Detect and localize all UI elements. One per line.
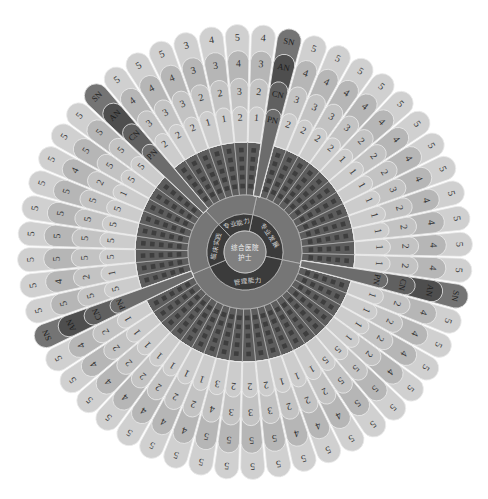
item-label-glyph [231,175,236,180]
item-label-glyph [257,341,262,346]
item-label-glyph [141,241,146,246]
level-value-label: 4 [236,58,241,69]
item-label-glyph [245,316,250,321]
item-label-glyph [177,244,182,249]
chart-canvas: 专业发展管理能力临床实践专业能力 23452345234523451245124… [0,0,488,499]
item-label-glyph [168,252,173,257]
radial-competency-chart: 专业发展管理能力临床实践专业能力 23452345234523451245124… [0,0,488,499]
level-value-label: 4 [428,265,439,271]
item-label-glyph [142,265,147,270]
item-label-glyph [253,315,258,320]
item-label-glyph [251,148,256,153]
item-label-glyph [240,184,245,189]
item-label-glyph [246,343,251,348]
level-value-label: 5 [235,32,240,43]
level-value-label: 5 [51,233,62,239]
item-label-glyph [249,175,254,180]
level-value-label: 3 [237,86,242,97]
level-value-label: 3 [228,407,234,418]
item-label-glyph [234,351,239,356]
level-value-label: 4 [428,243,439,248]
item-label-glyph [239,148,244,153]
item-label-glyph [160,232,165,237]
item-label-glyph [150,253,155,258]
item-label-glyph [317,256,322,261]
level-value-label: 1 [374,244,385,249]
item-label-glyph [235,342,240,347]
item-label-glyph [343,233,348,238]
item-label-glyph [168,243,173,248]
item-label-glyph [316,238,321,243]
item-label-glyph [159,242,164,247]
item-label-glyph [151,230,156,235]
level-value-label: 3 [248,407,253,418]
item-label-glyph [177,260,182,265]
item-label-glyph [255,332,260,337]
item-label-glyph [325,236,330,241]
item-label-glyph [246,334,251,339]
level-value-label: 1 [374,261,385,267]
item-label-glyph [248,184,253,189]
item-label-glyph [308,255,313,260]
level-value-label: 5 [226,435,232,446]
item-label-glyph [336,246,341,251]
item-label-glyph [344,258,349,263]
item-label-glyph [151,264,156,269]
level-value-label: 2 [400,263,411,269]
item-label-glyph [309,247,314,252]
center-hub: 综合医院 护士 [224,231,266,273]
item-label-glyph [334,235,339,240]
level-value-label: 5 [250,461,255,472]
level-value-label: 4 [260,32,266,43]
item-label-glyph [246,352,251,357]
level-value-label: 5 [249,435,254,446]
item-label-glyph [245,325,250,330]
item-label-glyph [229,314,234,319]
item-label-glyph [150,242,155,247]
level-value-label: 2 [247,381,252,392]
center-circle [224,231,266,273]
item-label-glyph [223,340,228,345]
level-value-label: 2 [400,244,411,249]
item-label-glyph [258,350,263,355]
level-value-label: 5 [105,238,116,244]
level-value-label: 3 [258,58,264,69]
level-value-label: 5 [105,254,116,259]
item-label-glyph [240,166,245,171]
level-value-label: 5 [51,256,62,261]
item-label-glyph [142,228,147,233]
level-value-label: 2 [237,112,242,123]
level-value-label: 5 [25,257,36,262]
level-value-label: 5 [454,242,465,247]
level-value-label: 5 [454,267,465,273]
level-value-label: 2 [256,86,262,97]
item-label-glyph [159,253,164,258]
level-value-label: 2 [231,381,237,392]
item-label-glyph [254,323,259,328]
center-label-line1: 综合医院 [231,243,259,252]
item-label-glyph [327,247,332,252]
item-label-glyph [177,252,182,257]
item-label-glyph [141,253,146,258]
item-label-glyph [227,323,232,328]
center-label-line2: 护士 [238,253,252,262]
item-label-glyph [221,349,226,354]
item-label-glyph [168,261,173,266]
item-label-glyph [159,262,164,267]
item-label-glyph [228,158,233,163]
item-label-glyph [326,257,331,262]
item-label-glyph [335,257,340,262]
item-label-glyph [240,175,245,180]
level-value-label: 5 [25,231,36,237]
item-label-glyph [250,166,255,171]
level-value-label: 5 [224,461,230,472]
item-label-glyph [169,234,174,239]
item-label-glyph [226,149,231,154]
item-label-glyph [235,333,240,338]
level-value-label: 5 [79,255,90,260]
level-value-label: 1 [254,112,260,123]
item-label-glyph [178,236,183,241]
item-label-glyph [232,184,237,189]
item-label-glyph [308,239,313,244]
item-label-glyph [229,166,234,171]
